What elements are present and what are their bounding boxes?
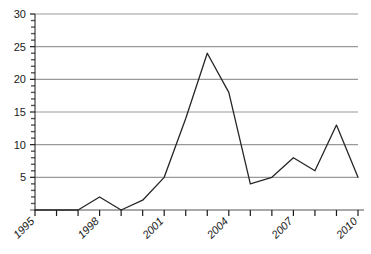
line-chart: 51015202530 199519982001200420072010 (0, 0, 371, 254)
ytick-label: 15 (14, 106, 26, 118)
ytick-label: 30 (14, 8, 26, 20)
chart-canvas: 51015202530 199519982001200420072010 (0, 0, 371, 254)
ytick-label: 5 (20, 171, 26, 183)
ytick-label: 25 (14, 41, 26, 53)
ytick-label: 20 (14, 73, 26, 85)
ytick-label: 10 (14, 139, 26, 151)
